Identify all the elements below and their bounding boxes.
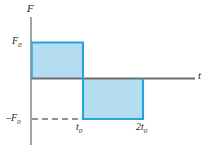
x-tick-subscript-2t0: 0: [144, 127, 148, 135]
force-axis-label: F: [27, 3, 34, 14]
time-axis-label: t: [198, 70, 201, 81]
negative-pulse-region: [83, 79, 143, 120]
force-vs-time-figure: F t F0 –F0 t0 2t0: [0, 0, 215, 148]
y-tick-label-negative: –F0: [6, 113, 21, 126]
y-tick-label-positive: F0: [12, 36, 22, 49]
x-tick-subscript-t0: 0: [79, 127, 83, 135]
x-tick-label-t0: t0: [76, 122, 82, 135]
y-tick-subscript-positive: 0: [18, 41, 22, 49]
positive-pulse-region: [32, 43, 83, 79]
y-tick-subscript-negative: 0: [17, 118, 21, 126]
x-tick-label-2t0: 2t0: [136, 122, 147, 135]
plot-canvas: [0, 0, 215, 148]
